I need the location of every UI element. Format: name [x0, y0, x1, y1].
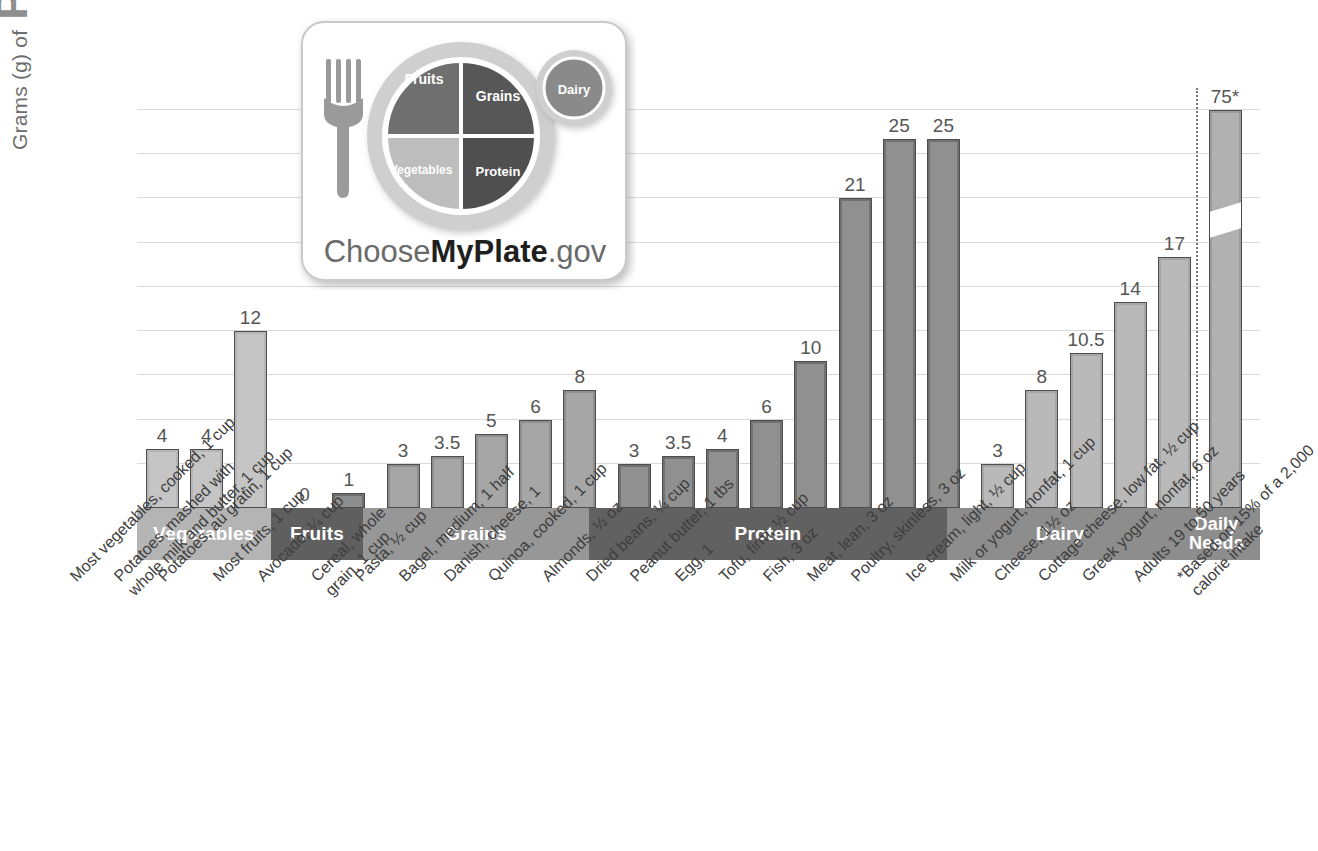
bar-value-label: 6 [530, 397, 541, 416]
bar-slot[interactable]: 6 [745, 397, 789, 508]
bar-value-label: 5 [486, 411, 497, 430]
y-axis-title: Grams (g) of Protein [0, 0, 32, 150]
plate-label-protein: Protein [476, 164, 521, 179]
bar-value-label: 8 [1037, 367, 1048, 386]
bar-value-label: 12 [240, 308, 261, 327]
bar-value-label: 4 [717, 426, 728, 445]
y-axis-title-prefix: Grams (g) of [8, 30, 32, 150]
bar[interactable] [1070, 353, 1103, 508]
bar[interactable] [750, 420, 783, 508]
bar-value-label: 21 [844, 175, 865, 194]
bar[interactable] [387, 464, 420, 508]
bar-value-label: 10.5 [1068, 330, 1105, 349]
bar-value-label: 3.5 [665, 433, 691, 452]
bar-value-label: 75* [1211, 87, 1240, 106]
bar-value-label: 14 [1120, 279, 1141, 298]
bar-slot[interactable]: 21 [833, 175, 877, 508]
bar-slot[interactable]: 3 [612, 441, 656, 508]
axis-break-marker [1209, 200, 1242, 240]
bar[interactable] [794, 361, 827, 508]
myplate-logo-graphic: Fruits Grains Vegetables Protein Dairy C… [298, 18, 636, 290]
logo-wordmark: ChooseMyPlate.gov [324, 234, 607, 269]
plate-label-vegetables: Vegetables [390, 163, 453, 177]
bar[interactable] [431, 456, 464, 508]
bar-value-label: 25 [889, 116, 910, 135]
bar-value-label: 25 [933, 116, 954, 135]
bar-value-label: 3 [398, 441, 409, 460]
bar-value-label: 10 [800, 338, 821, 357]
plate-label-dairy: Dairy [558, 82, 591, 97]
bar-value-label: 3 [992, 441, 1003, 460]
bar-slot[interactable]: 3 [381, 441, 425, 508]
x-axis-tick-labels: Most vegetables, cooked, 1 cupPotatoes, … [0, 560, 1277, 850]
bar-slot[interactable]: 10 [789, 338, 833, 508]
bar-value-label: 4 [157, 426, 168, 445]
bar-value-label: 3 [629, 441, 640, 460]
bar-value-label: 17 [1164, 234, 1185, 253]
daily-needs-divider [1196, 88, 1198, 508]
plate-label-fruits: Fruits [405, 71, 444, 87]
bar-value-label: 1 [344, 470, 355, 489]
choosemyplate-logo: Fruits Grains Vegetables Protein Dairy C… [298, 18, 636, 290]
bar-value-label: 8 [575, 367, 586, 386]
bar[interactable] [618, 464, 651, 508]
bar-slot[interactable]: 10.5 [1064, 330, 1108, 508]
bar-value-label: 6 [761, 397, 772, 416]
bar[interactable] [927, 139, 960, 508]
bar-slot[interactable]: 25 [877, 116, 921, 508]
y-axis-title-emphasis: Protein [0, 0, 33, 20]
bar[interactable] [883, 139, 916, 508]
bar[interactable] [839, 198, 872, 508]
bar-value-label: 3.5 [434, 433, 460, 452]
bar-slot[interactable]: 3.5 [425, 433, 469, 508]
bar-slot[interactable]: 25 [921, 116, 965, 508]
plate-label-grains: Grains [476, 88, 521, 104]
